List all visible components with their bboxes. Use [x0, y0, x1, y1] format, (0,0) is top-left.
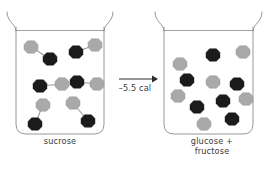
sucrose-molecule — [24, 41, 57, 66]
fructose-molecule — [180, 74, 194, 87]
glucose-molecule — [173, 58, 187, 71]
sucrose-molecule — [66, 97, 95, 128]
left-beaker-lip-right — [104, 12, 113, 31]
sucrose-molecule — [69, 39, 102, 59]
fructose-unit — [70, 76, 84, 89]
glucose-unit — [88, 39, 102, 52]
right-beaker-caption: glucose + fructose — [158, 136, 266, 156]
sucrose-molecule — [28, 99, 50, 131]
fructose-unit — [43, 53, 57, 66]
left-beaker-caption: sucrose — [8, 136, 112, 146]
fructose-molecule — [225, 113, 239, 126]
glucose-unit — [36, 99, 50, 112]
glucose-molecule — [197, 118, 211, 131]
fructose-unit — [81, 115, 95, 128]
fructose-unit — [28, 118, 42, 131]
reaction-arrow — [119, 76, 158, 83]
glucose-molecule — [239, 93, 253, 106]
fructose-molecule — [206, 49, 220, 62]
glucose-unit — [90, 78, 104, 91]
fructose-molecule — [216, 95, 230, 108]
left-molecule-group — [24, 39, 104, 131]
glucose-unit — [24, 41, 38, 54]
glucose-molecule — [206, 76, 220, 89]
right-beaker-lip-right — [253, 12, 262, 31]
fructose-molecule — [190, 101, 204, 114]
glucose-molecule — [171, 90, 185, 103]
sucrose-molecule — [70, 76, 104, 91]
arrow-head-icon — [152, 76, 158, 83]
right-beaker-lip-left — [155, 12, 164, 31]
reaction-energy-label: –5.5 cal — [108, 83, 162, 93]
sucrose-molecule — [33, 78, 69, 93]
reaction-diagram: sucrose glucose + fructose –5.5 cal — [0, 0, 278, 174]
left-beaker-lip-left — [7, 12, 16, 31]
glucose-molecule — [236, 46, 250, 59]
left-beaker — [7, 12, 113, 134]
fructose-molecule — [230, 78, 244, 91]
glucose-unit — [66, 97, 80, 110]
right-molecule-group — [171, 46, 253, 131]
right-beaker — [155, 12, 262, 134]
glucose-unit — [55, 78, 69, 91]
fructose-unit — [33, 80, 47, 93]
fructose-unit — [69, 46, 83, 59]
